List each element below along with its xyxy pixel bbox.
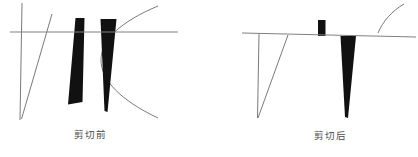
- caption-after-clipping: 剪切后: [314, 131, 348, 141]
- caption-before-clipping: 剪切前: [74, 130, 108, 140]
- clipping-illustration-figure: [0, 0, 418, 157]
- figure-background: [0, 0, 418, 157]
- after-small-bar-shape: [318, 20, 326, 36]
